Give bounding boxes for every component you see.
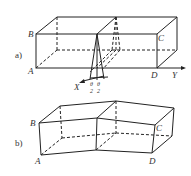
vertex-label-b-b: B — [30, 118, 36, 128]
angle-label-2-den: 2 — [97, 88, 100, 94]
panel-tag-b: b) — [15, 138, 23, 148]
vertex-label-b-a: B — [28, 29, 34, 39]
axis-label-y: Y — [172, 70, 178, 80]
vertex-label-a-b: A — [34, 156, 41, 166]
angle-label-1-num: θ — [90, 81, 93, 87]
vertex-label-c-a: C — [158, 33, 165, 43]
axis-label-x: X — [73, 82, 80, 92]
vertex-label-d-a: D — [150, 70, 158, 80]
y-arrow-icon — [181, 66, 186, 70]
diagram-canvas: B C A D Y X a) θ 2 θ 2 B C A D b) — [0, 0, 191, 176]
vertex-label-c-b: C — [156, 123, 163, 133]
x-arrow-icon — [79, 79, 85, 83]
panel-tag-a: a) — [15, 50, 22, 60]
angle-label-2-num: θ — [97, 81, 100, 87]
vertex-label-d-b: D — [148, 156, 156, 166]
panel-a-solid-edges — [36, 17, 181, 81]
angle-label-1-den: 2 — [90, 88, 93, 94]
panel-b-solid-edges — [39, 101, 174, 155]
vertex-label-a-a: A — [27, 66, 34, 76]
